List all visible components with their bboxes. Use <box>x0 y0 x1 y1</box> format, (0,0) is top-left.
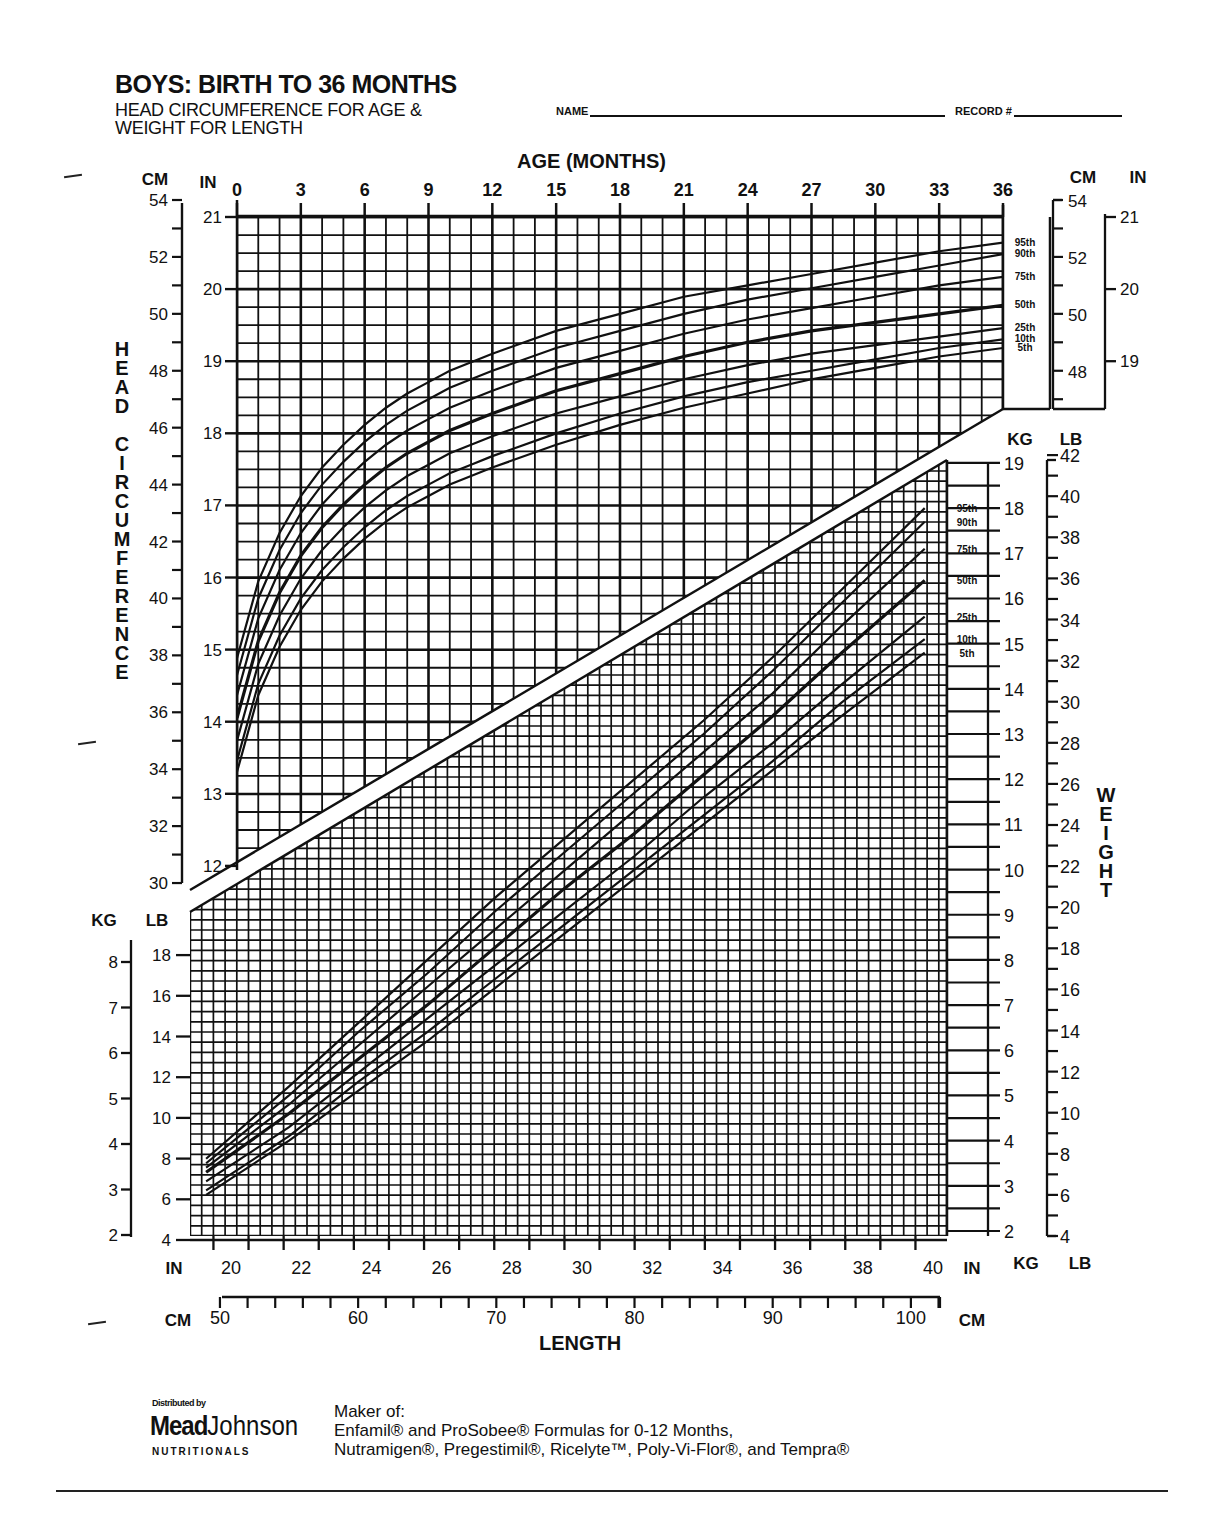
svg-text:15: 15 <box>203 641 222 660</box>
svg-text:KG: KG <box>1007 430 1033 449</box>
svg-text:18: 18 <box>610 180 630 200</box>
svg-text:14: 14 <box>1060 1022 1080 1042</box>
svg-text:IN: IN <box>964 1259 981 1278</box>
svg-text:CM: CM <box>959 1311 985 1330</box>
svg-text:26: 26 <box>1060 775 1080 795</box>
svg-text:36: 36 <box>783 1258 803 1278</box>
svg-text:50: 50 <box>1068 306 1087 325</box>
svg-text:18: 18 <box>203 424 222 443</box>
svg-text:54: 54 <box>1068 192 1087 211</box>
svg-text:38: 38 <box>1060 528 1080 548</box>
svg-text:22: 22 <box>1060 857 1080 877</box>
svg-text:10: 10 <box>1004 861 1024 881</box>
svg-text:11: 11 <box>1004 815 1023 835</box>
svg-text:48: 48 <box>1068 363 1087 382</box>
svg-text:13: 13 <box>1004 725 1024 745</box>
svg-text:18: 18 <box>1060 939 1080 959</box>
head-circumference-axis-title: HEADCIRCUMFERENCE <box>112 340 132 682</box>
svg-text:90th: 90th <box>1015 248 1036 259</box>
svg-text:8: 8 <box>162 1150 171 1169</box>
maker-line-3: Nutramigen®, Pregestimil®, Ricelyte™, Po… <box>334 1440 849 1459</box>
svg-text:40: 40 <box>1060 487 1080 507</box>
logo-mead: Mead <box>150 1410 207 1441</box>
svg-text:10th: 10th <box>957 634 978 645</box>
svg-text:32: 32 <box>1060 652 1080 672</box>
svg-text:80: 80 <box>624 1308 644 1328</box>
svg-text:5th: 5th <box>960 648 975 659</box>
svg-text:6: 6 <box>109 1044 118 1063</box>
maker-line-1: Maker of: <box>334 1402 849 1421</box>
svg-text:60: 60 <box>348 1308 368 1328</box>
svg-text:9: 9 <box>1004 906 1014 926</box>
svg-text:36: 36 <box>1060 569 1080 589</box>
distributed-by-label: Distributed by <box>152 1398 206 1408</box>
svg-text:6: 6 <box>1004 1041 1014 1061</box>
svg-text:14: 14 <box>1004 680 1024 700</box>
logo-johnson: Johnson <box>207 1410 298 1441</box>
svg-text:3: 3 <box>1004 1177 1014 1197</box>
svg-text:12: 12 <box>1060 1063 1080 1083</box>
svg-text:6: 6 <box>1060 1186 1070 1206</box>
svg-text:6: 6 <box>360 180 370 200</box>
svg-text:28: 28 <box>502 1258 522 1278</box>
svg-text:21: 21 <box>203 208 222 227</box>
svg-text:15: 15 <box>1004 635 1024 655</box>
svg-text:9: 9 <box>423 180 433 200</box>
svg-text:52: 52 <box>1068 249 1087 268</box>
svg-text:44: 44 <box>149 476 168 495</box>
svg-text:42: 42 <box>1060 446 1080 466</box>
svg-text:CM: CM <box>1070 168 1096 187</box>
svg-text:32: 32 <box>149 817 168 836</box>
svg-text:21: 21 <box>1120 208 1139 227</box>
svg-text:20: 20 <box>221 1258 241 1278</box>
svg-text:33: 33 <box>929 180 949 200</box>
svg-text:LB: LB <box>146 911 169 930</box>
svg-text:54: 54 <box>149 191 168 210</box>
svg-text:48: 48 <box>149 362 168 381</box>
svg-text:IN: IN <box>1130 168 1147 187</box>
svg-text:CM: CM <box>165 1311 191 1330</box>
svg-text:0: 0 <box>232 180 242 200</box>
svg-text:13: 13 <box>203 785 222 804</box>
svg-text:22: 22 <box>291 1258 311 1278</box>
svg-text:40: 40 <box>149 589 168 608</box>
svg-text:16: 16 <box>1060 980 1080 1000</box>
svg-text:90th: 90th <box>957 517 978 528</box>
svg-text:IN: IN <box>200 173 217 192</box>
svg-text:36: 36 <box>993 180 1013 200</box>
svg-text:4: 4 <box>162 1231 171 1250</box>
svg-text:100: 100 <box>896 1308 926 1328</box>
svg-text:21: 21 <box>674 180 694 200</box>
svg-text:18: 18 <box>1004 499 1024 519</box>
svg-text:10: 10 <box>1060 1104 1080 1124</box>
svg-text:25th: 25th <box>1015 322 1036 333</box>
svg-text:12: 12 <box>203 857 222 876</box>
svg-text:30: 30 <box>865 180 885 200</box>
svg-text:95th: 95th <box>1015 237 1036 248</box>
svg-text:LB: LB <box>1069 1254 1092 1273</box>
svg-text:7: 7 <box>1004 996 1014 1016</box>
svg-text:3: 3 <box>109 1181 118 1200</box>
svg-text:46: 46 <box>149 419 168 438</box>
svg-text:90: 90 <box>763 1308 783 1328</box>
svg-text:32: 32 <box>642 1258 662 1278</box>
svg-text:24: 24 <box>738 180 758 200</box>
svg-text:5: 5 <box>109 1090 118 1109</box>
svg-text:75th: 75th <box>1015 271 1036 282</box>
svg-text:4: 4 <box>1004 1132 1014 1152</box>
maker-line-2: Enfamil® and ProSobee® Formulas for 0-12… <box>334 1421 849 1440</box>
svg-text:30: 30 <box>1060 693 1080 713</box>
svg-text:12: 12 <box>1004 770 1024 790</box>
svg-text:42: 42 <box>149 533 168 552</box>
age-axis-title: AGE (MONTHS) <box>517 150 666 173</box>
svg-text:40: 40 <box>923 1258 943 1278</box>
svg-text:50: 50 <box>210 1308 230 1328</box>
svg-text:52: 52 <box>149 248 168 267</box>
svg-text:19: 19 <box>1004 454 1024 474</box>
svg-text:8: 8 <box>109 953 118 972</box>
svg-text:6: 6 <box>162 1190 171 1209</box>
svg-text:95th: 95th <box>957 503 978 514</box>
svg-text:50: 50 <box>149 305 168 324</box>
svg-text:19: 19 <box>1120 352 1139 371</box>
svg-text:30: 30 <box>572 1258 592 1278</box>
